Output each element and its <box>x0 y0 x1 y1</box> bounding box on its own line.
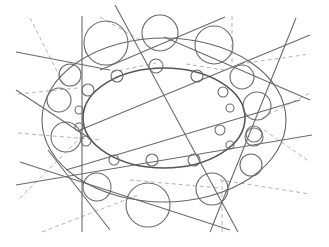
tangent-line <box>16 52 110 70</box>
tangent-circle <box>230 65 254 89</box>
tangent-circle <box>82 84 94 96</box>
tangent-circle <box>196 173 228 205</box>
dashed-line <box>186 64 224 70</box>
tangent-line <box>66 100 300 170</box>
inner-ellipse <box>83 68 245 168</box>
tangent-circle <box>47 88 71 112</box>
tangent-circle <box>226 104 234 112</box>
tangent-line <box>164 37 310 100</box>
geometry-diagram <box>0 0 329 247</box>
tangent-line <box>20 162 230 230</box>
dashed-line <box>42 195 138 232</box>
tangent-circles <box>47 15 271 227</box>
tangent-circle <box>146 154 158 166</box>
tangent-line <box>210 18 296 232</box>
tangent-lines <box>16 5 312 232</box>
tangent-circle <box>126 183 170 227</box>
tangent-circle <box>142 15 178 51</box>
tangent-circle <box>240 154 262 176</box>
tangent-circle <box>51 122 81 152</box>
dashed-line <box>264 130 310 162</box>
tangent-circle <box>149 59 163 73</box>
tangent-circle <box>215 125 225 135</box>
tangent-line <box>16 135 312 185</box>
dashed-construction-lines <box>18 16 310 232</box>
diagram-canvas <box>0 0 329 247</box>
tangent-circle <box>218 87 228 97</box>
